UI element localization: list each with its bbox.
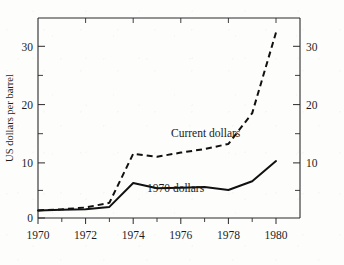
y-tick-label-left-0: 0 (27, 212, 33, 224)
y-tick-label-left-20: 20 (22, 99, 34, 111)
y-axis-title: US dollars per barrel (4, 74, 15, 162)
x-tick-label-1972: 1972 (74, 229, 97, 241)
chart-figure: 30 20 10 0 30 20 10 1970 1972 1974 1976 … (0, 0, 344, 265)
y-tick-label-right-20: 20 (306, 99, 318, 111)
y-tick-label-left-30: 30 (22, 41, 34, 53)
x-tick-label-1970: 1970 (27, 229, 50, 241)
y-tick-label-right-30: 30 (306, 41, 318, 53)
x-axis-bottom-ticks (38, 218, 276, 224)
y-tick-label-left-10: 10 (22, 157, 34, 169)
y-axis-left-ticks (38, 46, 45, 218)
x-axis-top-ticks (86, 18, 276, 23)
y-axis-left-labels: 30 20 10 0 (22, 41, 34, 225)
x-tick-label-1978: 1978 (217, 229, 240, 241)
annotation-current-dollars: Current dollars (171, 127, 241, 139)
y-axis-right-labels: 30 20 10 (306, 41, 318, 170)
line-chart-svg: 30 20 10 0 30 20 10 1970 1972 1974 1976 … (0, 0, 344, 265)
x-tick-label-1974: 1974 (122, 229, 145, 241)
y-axis-right-ticks (293, 46, 300, 190)
x-tick-label-1976: 1976 (169, 229, 192, 241)
y-tick-label-right-10: 10 (306, 157, 318, 169)
annotation-1970-dollars: 1970 dollars (147, 182, 205, 194)
x-tick-label-1980: 1980 (265, 229, 288, 241)
x-axis-labels: 1970 1972 1974 1976 1978 1980 (27, 229, 288, 241)
